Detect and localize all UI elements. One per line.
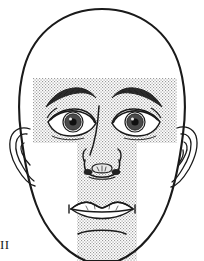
- corner-mark-label: II: [0, 238, 10, 251]
- face-illustration: [0, 0, 204, 261]
- face-diagram-figure: II: [0, 0, 204, 261]
- left-ear: [10, 128, 35, 186]
